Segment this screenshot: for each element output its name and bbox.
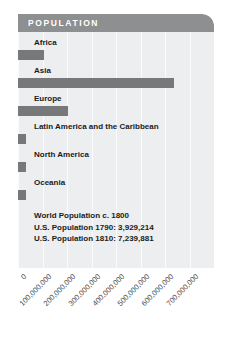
bar <box>18 190 26 200</box>
annotation-line: U.S. Population 1810: 7,239,881 <box>34 233 154 245</box>
population-chart-figure: POPULATION AfricaAsiaEuropeLatin America… <box>0 0 226 357</box>
bar-category-label: Asia <box>34 66 51 76</box>
bar-category-label: North America <box>34 150 89 160</box>
bar-category-label: Latin America and the Caribbean <box>34 122 159 132</box>
annotation-line: World Population c. 1800 <box>34 210 154 222</box>
x-axis-tick-label: 0 <box>19 272 28 281</box>
gridline <box>18 32 19 268</box>
bar <box>18 134 26 144</box>
bar-category-label: Europe <box>34 94 62 104</box>
chart-panel: POPULATION AfricaAsiaEuropeLatin America… <box>18 14 214 268</box>
bar-category-label: Africa <box>34 38 57 48</box>
plot-area: AfricaAsiaEuropeLatin America and the Ca… <box>18 32 214 268</box>
bar <box>18 162 26 172</box>
page-title: POPULATION <box>28 18 99 28</box>
x-axis: 0100,000,000200,000,000300,000,000400,00… <box>0 268 226 357</box>
bar <box>18 50 44 60</box>
bar <box>18 78 174 88</box>
annotation-block: World Population c. 1800U.S. Population … <box>34 210 154 245</box>
bar-category-label: Oceania <box>34 178 65 188</box>
bar <box>18 106 68 116</box>
annotation-line: U.S. Population 1790: 3,929,214 <box>34 222 154 234</box>
gridline <box>190 32 191 268</box>
gridline <box>165 32 166 268</box>
chart-header-bar: POPULATION <box>18 14 214 32</box>
